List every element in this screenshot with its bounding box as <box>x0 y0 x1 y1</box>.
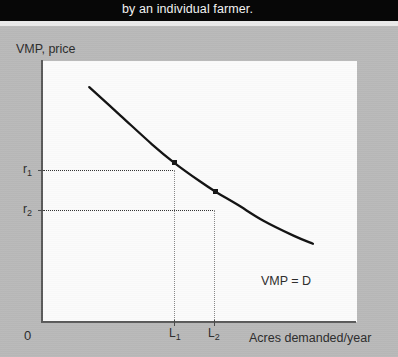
demand-curve-path <box>89 87 313 244</box>
data-point-marker-1 <box>172 160 177 165</box>
curve-label-vmp-d: VMP = D <box>261 274 311 288</box>
figure-screenshot: by an individual farmer. VMP, price Acre… <box>0 0 398 357</box>
demand-curve-svg <box>0 0 398 357</box>
data-point-marker-2 <box>213 189 218 194</box>
